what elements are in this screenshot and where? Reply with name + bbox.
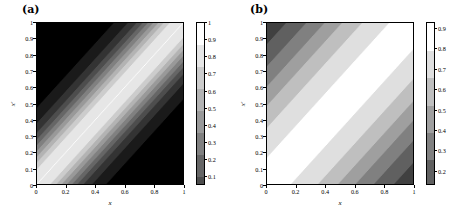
ytick-label: 0.8 — [14, 51, 33, 58]
ytick-label: 0 — [14, 182, 33, 189]
xtick-label: 0.6 — [351, 188, 359, 195]
panel-a-colorbar — [196, 22, 205, 185]
xtick-label: 0.6 — [121, 188, 129, 195]
colorbar-tick-mark — [435, 89, 437, 90]
colorbar-tick-mark — [435, 48, 437, 49]
colorbar-tick-label: 0.7 — [438, 65, 446, 72]
panel-a-yaxis-label: x′ — [9, 102, 17, 107]
ytick-mark — [33, 136, 36, 137]
colorbar-tick-mark — [205, 108, 207, 109]
panel-b-plot-area — [266, 22, 414, 185]
colorbar-tick-label: 0.1 — [208, 173, 216, 180]
ytick-label: 1 — [14, 19, 33, 26]
colorbar-tick-mark — [205, 159, 207, 160]
ytick-label: 0.4 — [14, 116, 33, 123]
ytick-mark — [33, 38, 36, 39]
ytick-mark — [263, 87, 266, 88]
ytick-label: 0.9 — [244, 35, 263, 42]
colorbar-tick-label: 0.5 — [438, 106, 446, 113]
panel-a-tag: (a) — [22, 3, 40, 16]
xtick-mark — [95, 185, 96, 188]
ytick-mark — [33, 152, 36, 153]
ytick-label: 0.7 — [244, 67, 263, 74]
xtick-label: 0 — [34, 188, 37, 195]
xtick-label: 1 — [182, 188, 185, 195]
colorbar-tick-label: 0.4 — [438, 126, 446, 133]
colorbar-tick-label: 0.4 — [208, 121, 216, 128]
ytick-mark — [263, 120, 266, 121]
xtick-label: 0.8 — [151, 188, 159, 195]
colorbar-tick-label: 1 — [208, 19, 211, 26]
ytick-mark — [263, 136, 266, 137]
colorbar-tick-mark — [205, 22, 207, 23]
xtick-label: 0.8 — [381, 188, 389, 195]
xtick-mark — [325, 185, 326, 188]
colorbar-tick-label: 0.6 — [208, 87, 216, 94]
ytick-mark — [33, 22, 36, 23]
xtick-label: 1 — [412, 188, 415, 195]
colorbar-tick-mark — [205, 56, 207, 57]
xtick-mark — [154, 185, 155, 188]
xtick-mark — [296, 185, 297, 188]
ytick-label: 0.3 — [14, 133, 33, 140]
xtick-label: 0.2 — [62, 188, 70, 195]
ytick-label: 0.8 — [244, 51, 263, 58]
xtick-mark — [266, 185, 267, 188]
colorbar-tick-mark — [435, 110, 437, 111]
colorbar-tick-label: 0.9 — [208, 36, 216, 43]
xtick-label: 0.4 — [91, 188, 99, 195]
ytick-label: 0.6 — [244, 84, 263, 91]
colorbar-tick-label: 0.5 — [208, 104, 216, 111]
xtick-mark — [355, 185, 356, 188]
colorbar-tick-label: 0.8 — [208, 53, 216, 60]
ytick-mark — [263, 104, 266, 105]
panel-a: (a) 00.10.20.30.40.50.60.70.80.91 00.20.… — [0, 0, 232, 224]
colorbar-tick-label: 0.7 — [208, 70, 216, 77]
xtick-mark — [414, 185, 415, 188]
ytick-mark — [263, 169, 266, 170]
panel-b-colorbar — [426, 22, 435, 185]
colorbar-tick-mark — [205, 176, 207, 177]
ytick-label: 0.9 — [14, 35, 33, 42]
xtick-mark — [36, 185, 37, 188]
colorbar-tick-mark — [205, 73, 207, 74]
colorbar-tick-label: 0.3 — [438, 147, 446, 154]
ytick-mark — [33, 71, 36, 72]
panel-b-xaxis-label: x — [338, 199, 341, 207]
ytick-label: 0.7 — [14, 67, 33, 74]
colorbar-tick-label: 0.6 — [438, 86, 446, 93]
panel-a-xaxis-label: x — [108, 199, 111, 207]
panel-a-heatmap — [36, 22, 184, 185]
ytick-label: 0.3 — [244, 133, 263, 140]
xtick-mark — [384, 185, 385, 188]
xtick-mark — [125, 185, 126, 188]
xtick-mark — [66, 185, 67, 188]
colorbar-tick-label: 0.8 — [438, 45, 446, 52]
colorbar-tick-label: 0.9 — [438, 25, 446, 32]
ytick-mark — [263, 22, 266, 23]
xtick-label: 0 — [264, 188, 267, 195]
ytick-mark — [263, 152, 266, 153]
colorbar-tick-label: 0.2 — [438, 167, 446, 174]
panel-b: (b) 00.10.20.30.40.50.60.70.80.91 00.20.… — [233, 0, 465, 224]
ytick-label: 0.6 — [14, 84, 33, 91]
ytick-label: 0.1 — [14, 165, 33, 172]
ytick-label: 1 — [244, 19, 263, 26]
panel-b-tag: (b) — [250, 3, 268, 16]
colorbar-tick-mark — [205, 39, 207, 40]
ytick-label: 0.1 — [244, 165, 263, 172]
colorbar-tick-mark — [435, 171, 437, 172]
colorbar-tick-label: 0.3 — [208, 139, 216, 146]
colorbar-tick-mark — [435, 150, 437, 151]
ytick-mark — [33, 120, 36, 121]
colorbar-tick-mark — [205, 142, 207, 143]
colorbar-tick-label: 0.2 — [208, 156, 216, 163]
ytick-label: 0 — [244, 182, 263, 189]
ytick-mark — [263, 55, 266, 56]
panel-a-colorbar-gradient — [197, 23, 205, 185]
colorbar-tick-mark — [435, 69, 437, 70]
xtick-label: 0.4 — [321, 188, 329, 195]
ytick-mark — [33, 87, 36, 88]
ytick-mark — [33, 55, 36, 56]
ytick-mark — [33, 104, 36, 105]
